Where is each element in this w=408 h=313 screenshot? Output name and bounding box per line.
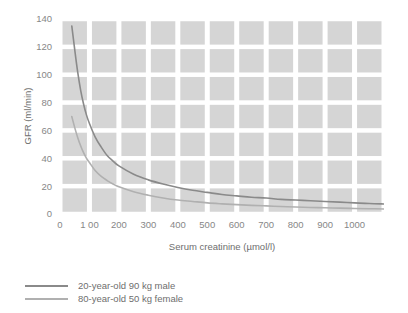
y-tick-label: 20: [41, 181, 52, 192]
x-tick-label: 300: [140, 219, 156, 230]
grid-block: [63, 188, 87, 211]
grid-block: [239, 105, 263, 128]
grid-block: [298, 77, 322, 100]
grid-block: [298, 21, 322, 44]
grid-block: [92, 49, 116, 72]
x-tick-label: 600: [229, 219, 245, 230]
grid-block: [269, 133, 293, 156]
legend-label-male: 20-year-old 90 kg male: [78, 280, 175, 291]
grid-block: [357, 133, 381, 156]
grid-block: [92, 21, 116, 44]
grid-block: [180, 105, 204, 128]
x-tick-label: 1 00: [80, 219, 99, 230]
x-tick-label: 700: [258, 219, 274, 230]
grid-block: [328, 105, 352, 128]
grid-block: [210, 77, 234, 100]
y-tick-label: 0: [47, 208, 52, 219]
grid-block: [328, 133, 352, 156]
grid-block: [298, 161, 322, 184]
grid-block: [210, 133, 234, 156]
grid-block: [357, 49, 381, 72]
chart-canvas: 020406080100120140 01 002003004005006007…: [0, 0, 408, 313]
x-tick-label: 1000: [344, 219, 365, 230]
grid-block: [151, 161, 175, 184]
grid-block: [121, 133, 145, 156]
y-tick-label: 40: [41, 153, 52, 164]
grid-block: [239, 21, 263, 44]
grid-block: [239, 161, 263, 184]
grid-block: [357, 161, 381, 184]
grid-block: [63, 21, 87, 44]
gfr-creatinine-figure: 020406080100120140 01 002003004005006007…: [0, 0, 408, 313]
grid-block: [63, 77, 87, 100]
grid-block: [328, 161, 352, 184]
grid-block: [121, 77, 145, 100]
figure-background: [0, 0, 408, 313]
grid-block: [92, 105, 116, 128]
grid-block: [151, 133, 175, 156]
grid-block: [239, 133, 263, 156]
x-tick-label: 0: [57, 219, 62, 230]
grid-block: [357, 21, 381, 44]
grid-block: [210, 161, 234, 184]
grid-block: [298, 133, 322, 156]
grid-block: [357, 105, 381, 128]
grid-block: [210, 49, 234, 72]
grid-block: [151, 49, 175, 72]
grid-block: [210, 105, 234, 128]
grid-block: [210, 21, 234, 44]
grid-block: [328, 49, 352, 72]
x-tick-label: 200: [111, 219, 127, 230]
grid-block: [269, 161, 293, 184]
grid-block: [121, 21, 145, 44]
grid-block: [180, 161, 204, 184]
grid-block: [121, 161, 145, 184]
grid-block: [210, 188, 234, 211]
grid-block: [151, 77, 175, 100]
grid-block: [269, 77, 293, 100]
grid-block: [298, 105, 322, 128]
y-tick-label: 120: [36, 41, 52, 52]
x-tick-label: 900: [317, 219, 333, 230]
grid-block: [180, 21, 204, 44]
x-tick-label: 400: [170, 219, 186, 230]
y-tick-label: 100: [36, 69, 52, 80]
grid-block: [151, 105, 175, 128]
grid-block: [121, 49, 145, 72]
y-tick-label: 60: [41, 125, 52, 136]
grid-block: [121, 105, 145, 128]
grid-block: [151, 21, 175, 44]
grid-block: [239, 188, 263, 211]
grid-block: [328, 21, 352, 44]
grid-block: [92, 77, 116, 100]
grid-block: [180, 77, 204, 100]
grid-block: [357, 77, 381, 100]
grid-block: [328, 77, 352, 100]
legend-label-female: 80-year-old 50 kg female: [78, 293, 183, 304]
grid-block: [63, 161, 87, 184]
grid-block: [269, 49, 293, 72]
x-tick-label: 500: [199, 219, 215, 230]
y-tick-label: 80: [41, 97, 52, 108]
grid-block: [92, 188, 116, 211]
x-tick-label: 800: [288, 219, 304, 230]
grid-block: [180, 133, 204, 156]
grid-block: [239, 49, 263, 72]
grid-block: [298, 49, 322, 72]
y-tick-label: 140: [36, 13, 52, 24]
grid-block: [239, 77, 263, 100]
grid-block: [269, 105, 293, 128]
x-axis-title: Serum creatinine (µmol/l): [169, 241, 275, 252]
grid-block: [269, 21, 293, 44]
y-axis-title: GFR (ml/min): [22, 88, 33, 145]
grid-block: [180, 49, 204, 72]
